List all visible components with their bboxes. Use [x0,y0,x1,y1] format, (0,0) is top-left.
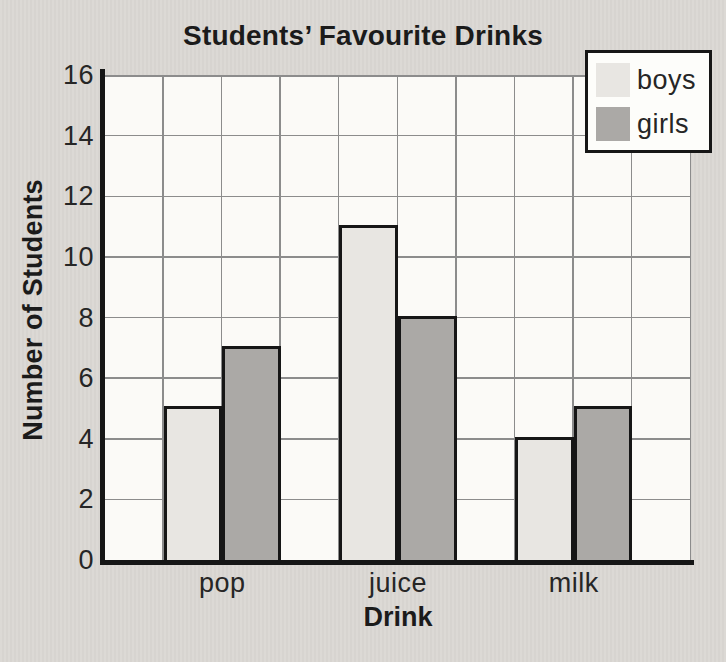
bar-girls-milk [574,406,633,560]
bar-girls-pop [222,346,281,560]
x-tick-label-pop: pop [199,568,246,599]
worksheet-page: Students’ Favourite Drinks Number of Stu… [0,0,726,662]
legend-swatch-girls [596,107,630,141]
legend-label-girls: girls [637,108,689,141]
x-axis-title: Drink [105,602,691,633]
bar-girls-juice [398,316,457,561]
legend-item-girls: girls [596,107,701,141]
y-tick-label: 16 [0,60,94,91]
chart-title: Students’ Favourite Drinks [0,20,726,52]
bar-boys-milk [515,437,574,560]
y-tick-label: 8 [0,302,94,333]
bar-boys-juice [339,225,398,560]
y-tick-label: 6 [0,363,94,394]
x-axis-line [100,560,694,565]
gridline-horizontal [105,196,691,198]
y-tick-label: 4 [0,423,94,454]
y-tick-label: 14 [0,120,94,151]
legend: boysgirls [585,50,712,153]
y-tick-label: 2 [0,484,94,515]
gridline-horizontal [105,256,691,258]
legend-swatch-boys [596,63,630,97]
y-tick-label: 0 [0,545,94,576]
x-tick-label-juice: juice [369,568,427,599]
y-tick-label: 12 [0,181,94,212]
x-tick-label-milk: milk [549,568,599,599]
bar-boys-pop [164,406,223,560]
y-tick-label: 10 [0,241,94,272]
y-axis-line [100,69,105,565]
legend-item-boys: boys [596,63,701,97]
legend-label-boys: boys [637,64,696,97]
